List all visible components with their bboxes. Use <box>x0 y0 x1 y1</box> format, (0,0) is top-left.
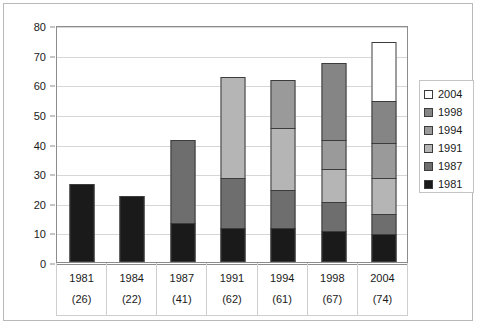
x-axis-total-label: (26) <box>72 294 92 306</box>
bar-segment-1981[interactable] <box>220 228 245 262</box>
bar-segment-1987[interactable] <box>371 214 396 236</box>
x-axis-year-label: 1981 <box>69 273 93 294</box>
x-axis-cell: 1981(26) <box>57 263 107 315</box>
legend-swatch-icon <box>424 90 433 99</box>
y-axis-tick-mark <box>50 86 55 87</box>
y-axis-tick-label: 20 <box>34 199 46 211</box>
legend-label: 1994 <box>438 125 462 136</box>
x-axis-cell: 1984(22) <box>107 263 157 315</box>
bar-segment-1981[interactable] <box>170 223 195 263</box>
x-axis-total-label: (67) <box>322 294 342 306</box>
stacked-bar[interactable] <box>170 141 195 262</box>
y-axis: 01020304050607080 <box>4 26 52 263</box>
x-axis-cell: 1998(67) <box>308 263 358 315</box>
x-axis-year-label: 1984 <box>119 273 143 294</box>
x-axis-total-label: (22) <box>122 294 142 306</box>
legend-item[interactable]: 1991 <box>424 139 470 157</box>
legend-item[interactable]: 1987 <box>424 157 470 175</box>
legend-swatch-icon <box>424 144 433 153</box>
bar-segment-1998[interactable] <box>371 101 396 143</box>
y-axis-tick-label: 80 <box>34 21 46 33</box>
bar-segment-1991[interactable] <box>271 128 296 191</box>
x-axis-year-label: 1998 <box>320 273 344 294</box>
bar-segment-1991[interactable] <box>321 169 346 203</box>
bar-segment-1998[interactable] <box>321 63 346 141</box>
legend-label: 1998 <box>438 107 462 118</box>
legend-label: 1981 <box>438 179 462 190</box>
legend-swatch-icon <box>424 108 433 117</box>
bar-column <box>359 27 409 262</box>
bar-segment-2004[interactable] <box>371 42 396 102</box>
legend-item[interactable]: 1981 <box>424 175 470 193</box>
bar-segment-1981[interactable] <box>120 196 145 262</box>
x-axis-total-label: (74) <box>373 294 393 306</box>
bar-column <box>258 27 308 262</box>
y-axis-tick-label: 0 <box>40 258 46 270</box>
bar-segment-1987[interactable] <box>170 140 195 224</box>
bar-segment-1994[interactable] <box>371 143 396 180</box>
x-axis-cell: 1991(62) <box>207 263 257 315</box>
chart-legend: 200419981994199119871981 <box>419 80 474 193</box>
legend-item[interactable]: 1994 <box>424 121 470 139</box>
y-axis-tick-mark <box>50 145 55 146</box>
y-axis-tick-mark <box>50 234 55 235</box>
x-axis-total-label: (41) <box>172 294 192 306</box>
stacked-bar[interactable] <box>120 197 145 262</box>
x-axis-cell: 1994(61) <box>258 263 308 315</box>
x-axis-year-label: 1991 <box>220 273 244 294</box>
bar-segment-1987[interactable] <box>271 190 296 230</box>
stacked-bar[interactable] <box>371 43 396 262</box>
bar-column <box>158 27 208 262</box>
y-axis-tick-label: 10 <box>34 228 46 240</box>
legend-swatch-icon <box>424 180 433 189</box>
chart-frame: 01020304050607080 1981(26)1984(22)1987(4… <box>3 3 473 321</box>
y-axis-tick-mark <box>50 264 55 265</box>
bar-segment-1981[interactable] <box>70 184 95 262</box>
bar-column <box>57 27 107 262</box>
legend-swatch-icon <box>424 126 433 135</box>
bar-segment-1994[interactable] <box>321 140 346 171</box>
y-axis-tick-mark <box>50 115 55 116</box>
bar-segment-1981[interactable] <box>271 228 296 262</box>
x-axis-year-label: 1987 <box>170 273 194 294</box>
x-axis-label-table: 1981(26)1984(22)1987(41)1991(62)1994(61)… <box>56 263 408 316</box>
bar-column <box>208 27 258 262</box>
legend-label: 1987 <box>438 161 462 172</box>
bar-segment-1994[interactable] <box>271 80 296 128</box>
x-axis-cell: 2004(74) <box>358 263 408 315</box>
bar-segment-1991[interactable] <box>220 77 245 179</box>
x-axis-cell: 1987(41) <box>157 263 207 315</box>
x-axis-total-label: (61) <box>272 294 292 306</box>
y-axis-tick-mark <box>50 204 55 205</box>
bar-segment-1987[interactable] <box>220 178 245 229</box>
bar-segment-1981[interactable] <box>321 231 346 262</box>
plot-area <box>56 26 408 263</box>
legend-swatch-icon <box>424 162 433 171</box>
x-axis-year-label: 2004 <box>370 273 394 294</box>
y-axis-tick-label: 70 <box>34 51 46 63</box>
bar-column <box>308 27 358 262</box>
y-axis-tick-mark <box>50 175 55 176</box>
bar-segment-1991[interactable] <box>371 178 396 215</box>
y-axis-tick-label: 30 <box>34 169 46 181</box>
stacked-bar[interactable] <box>321 64 346 262</box>
legend-item[interactable]: 2004 <box>424 85 470 103</box>
y-axis-tick-label: 40 <box>34 140 46 152</box>
stacked-bar[interactable] <box>271 81 296 262</box>
y-axis-tick-label: 60 <box>34 80 46 92</box>
legend-item[interactable]: 1998 <box>424 103 470 121</box>
legend-label: 2004 <box>438 89 462 100</box>
y-axis-tick-mark <box>50 27 55 28</box>
stacked-bar[interactable] <box>220 78 245 262</box>
bar-segment-1981[interactable] <box>371 234 396 262</box>
stacked-bar[interactable] <box>70 185 95 262</box>
x-axis-year-label: 1994 <box>270 273 294 294</box>
y-axis-tick-label: 50 <box>34 110 46 122</box>
bar-column <box>107 27 157 262</box>
bars-layer <box>57 27 407 262</box>
bar-segment-1987[interactable] <box>321 202 346 233</box>
x-axis-total-label: (62) <box>222 294 242 306</box>
y-axis-tick-mark <box>50 56 55 57</box>
legend-label: 1991 <box>438 143 462 154</box>
